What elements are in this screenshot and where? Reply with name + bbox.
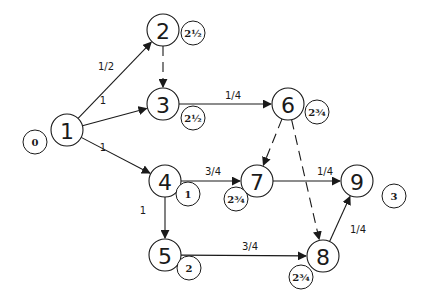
network-diagram: 1/2111/43/411/43/41/4 0122½32½415262¾72¾… bbox=[0, 0, 430, 304]
node-3: 32½ bbox=[147, 88, 205, 130]
nodes-group: 0122½32½415262¾72¾82¾93 bbox=[23, 14, 406, 289]
edge-label-1-2: 1/2 bbox=[98, 61, 114, 72]
edge-label-1-4: 1 bbox=[100, 142, 106, 153]
event-time-label: 2½ bbox=[184, 28, 201, 39]
node-label: 1 bbox=[60, 119, 74, 144]
edge-label-4-7: 3/4 bbox=[205, 166, 221, 177]
edge-labels-group: 1/2111/43/411/43/41/4 bbox=[98, 61, 366, 252]
edge-label-8-9: 1/4 bbox=[350, 224, 366, 235]
node-label: 2 bbox=[156, 19, 170, 44]
edge-8-9 bbox=[330, 196, 350, 241]
edge-1-2 bbox=[78, 42, 151, 118]
edge-label-5-8: 3/4 bbox=[242, 241, 258, 252]
node-label: 5 bbox=[158, 244, 172, 269]
node-5: 52 bbox=[149, 239, 201, 280]
node-label: 4 bbox=[158, 170, 172, 195]
event-time-label: 2¾ bbox=[227, 194, 245, 205]
node-4: 41 bbox=[149, 165, 200, 206]
edge-label-3-6: 1/4 bbox=[225, 90, 241, 101]
node-2: 22½ bbox=[147, 14, 205, 46]
event-time-label: 2¾ bbox=[292, 272, 310, 283]
event-time-label: 2½ bbox=[184, 113, 201, 124]
node-1: 1 bbox=[51, 114, 83, 146]
node-label: 6 bbox=[281, 93, 295, 118]
event-time-label: 1 bbox=[185, 189, 192, 200]
edge-5-8 bbox=[181, 255, 306, 256]
node-8: 82¾ bbox=[289, 240, 339, 289]
edge-label-4-5: 1 bbox=[140, 205, 146, 216]
edge-label-7-9: 1/4 bbox=[317, 166, 333, 177]
node-label: 9 bbox=[350, 170, 364, 195]
node-label: 3 bbox=[156, 93, 170, 118]
event-time-label: 2¾ bbox=[308, 107, 326, 118]
node-label: 7 bbox=[250, 170, 264, 195]
node-9: 93 bbox=[341, 165, 406, 208]
node-6: 62¾ bbox=[272, 88, 329, 124]
edge-label-1-3: 1 bbox=[100, 95, 106, 106]
edge-6-8 bbox=[292, 120, 320, 240]
edge-6-7 bbox=[263, 119, 282, 165]
edge-1-4 bbox=[81, 137, 150, 173]
edges-group bbox=[78, 42, 350, 256]
event-time-label: 3 bbox=[391, 191, 398, 202]
event-time-label: 2 bbox=[186, 263, 193, 274]
edge-1-3 bbox=[82, 108, 146, 125]
node-label: 8 bbox=[316, 245, 330, 270]
node-7: 72¾ bbox=[224, 165, 273, 211]
start-time-label: 0 bbox=[32, 137, 39, 148]
